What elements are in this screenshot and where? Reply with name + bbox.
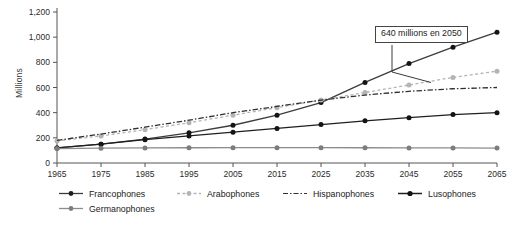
data-point-lusophones bbox=[407, 115, 412, 120]
x-tick-label: 2015 bbox=[268, 169, 287, 179]
data-point-francophones bbox=[407, 61, 412, 66]
data-point-francophones bbox=[495, 30, 500, 35]
legend-row-2: Germanophones bbox=[0, 201, 513, 216]
legend-item-lusophones[interactable]: Lusophones bbox=[397, 186, 476, 201]
data-point-lusophones bbox=[319, 122, 324, 127]
data-point-germanophones bbox=[319, 145, 324, 150]
data-point-lusophones bbox=[187, 133, 192, 138]
legend-label-hispanophones: Hispanophones bbox=[313, 189, 374, 199]
x-tick-label: 1965 bbox=[48, 169, 67, 179]
data-point-francophones bbox=[275, 113, 280, 118]
data-point-germanophones bbox=[99, 146, 104, 151]
x-tick-label: 2035 bbox=[356, 169, 375, 179]
data-point-arabophones bbox=[451, 75, 456, 80]
legend-marker-arabophones bbox=[176, 188, 202, 199]
data-point-francophones bbox=[231, 123, 236, 128]
data-point-francophones bbox=[451, 45, 456, 50]
legend-label-lusophones: Lusophones bbox=[428, 189, 476, 199]
data-point-francophones bbox=[363, 80, 368, 85]
legend-marker-hispanophones bbox=[282, 188, 308, 199]
data-point-lusophones bbox=[231, 130, 236, 135]
y-tick-label: 1,000 bbox=[29, 32, 51, 42]
data-point-lusophones bbox=[143, 137, 148, 142]
annotation-text: 640 millions en 2050 bbox=[381, 28, 462, 38]
data-point-arabophones bbox=[55, 138, 60, 143]
data-point-arabophones bbox=[143, 127, 148, 132]
data-point-germanophones bbox=[231, 145, 236, 150]
legend-item-hispanophones[interactable]: Hispanophones bbox=[282, 186, 397, 201]
data-point-germanophones bbox=[275, 145, 280, 150]
legend-label-francophones: Francophones bbox=[89, 189, 145, 199]
x-tick-label: 2025 bbox=[312, 169, 331, 179]
data-point-lusophones bbox=[495, 110, 500, 115]
x-tick-label: 2045 bbox=[400, 169, 419, 179]
x-tick-label: 2055 bbox=[444, 169, 463, 179]
legend-marker-francophones bbox=[58, 188, 84, 199]
y-tick-label: 800 bbox=[36, 57, 50, 67]
data-point-arabophones bbox=[407, 82, 412, 87]
data-point-germanophones bbox=[451, 145, 456, 150]
y-tick-label: 400 bbox=[36, 108, 50, 118]
data-point-germanophones bbox=[495, 146, 500, 151]
x-tick-label: 1985 bbox=[136, 169, 155, 179]
data-point-germanophones bbox=[407, 145, 412, 150]
legend-label-germanophones: Germanophones bbox=[89, 204, 155, 214]
legend-item-germanophones[interactable]: Germanophones bbox=[58, 201, 155, 216]
data-point-lusophones bbox=[451, 112, 456, 117]
data-point-arabophones bbox=[495, 69, 500, 74]
data-point-arabophones bbox=[187, 120, 192, 125]
data-point-germanophones bbox=[55, 146, 60, 151]
y-tick-label: 0 bbox=[45, 158, 50, 168]
y-tick-label: 200 bbox=[36, 133, 50, 143]
x-tick-label: 1995 bbox=[180, 169, 199, 179]
legend-label-arabophones: Arabophones bbox=[207, 189, 259, 199]
y-tick-label: 1,200 bbox=[29, 7, 51, 17]
annotation-leader-line bbox=[392, 45, 431, 83]
x-tick-label: 2005 bbox=[224, 169, 243, 179]
data-point-germanophones bbox=[187, 145, 192, 150]
x-tick-label: 1975 bbox=[92, 169, 111, 179]
y-tick-label: 600 bbox=[36, 83, 50, 93]
data-point-lusophones bbox=[275, 126, 280, 131]
legend-item-arabophones[interactable]: Arabophones bbox=[176, 186, 282, 201]
x-tick-label: 2065 bbox=[488, 169, 507, 179]
data-point-lusophones bbox=[363, 118, 368, 123]
legend-row-1: Francophones Arabophones Hispanophones L… bbox=[0, 186, 513, 201]
legend-item-francophones[interactable]: Francophones bbox=[58, 186, 176, 201]
data-point-germanophones bbox=[363, 145, 368, 150]
data-point-germanophones bbox=[143, 145, 148, 150]
chart-legend: Francophones Arabophones Hispanophones L… bbox=[0, 186, 513, 216]
legend-marker-lusophones bbox=[397, 188, 423, 199]
legend-marker-germanophones bbox=[58, 203, 84, 214]
annotation-callout: 640 millions en 2050 bbox=[375, 26, 468, 43]
chart-figure: Millions 02004006008001,0001,20019651975… bbox=[0, 0, 513, 231]
